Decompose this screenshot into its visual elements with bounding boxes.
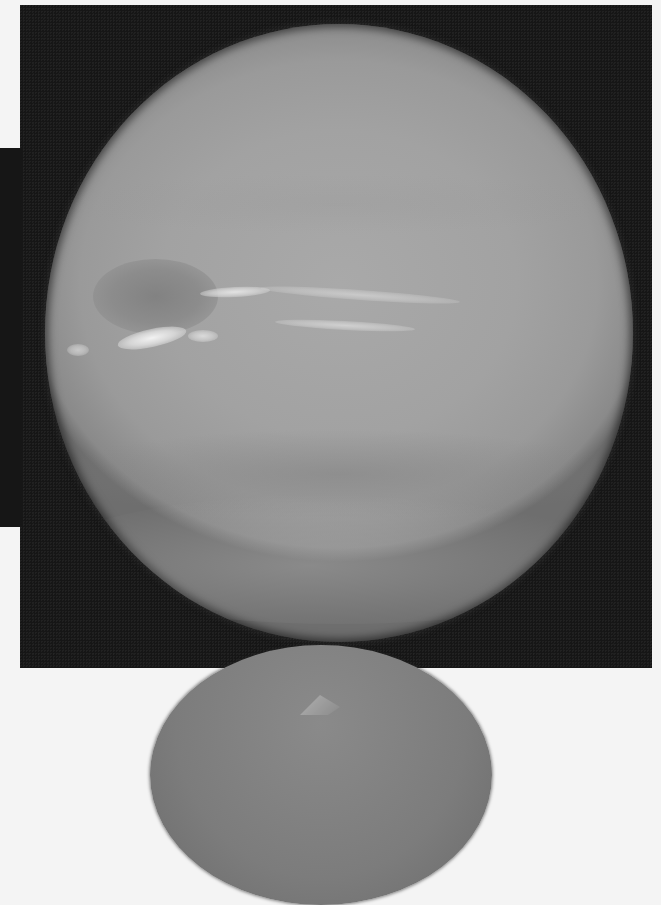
bright-cloud <box>67 344 89 356</box>
cloud-streak <box>260 283 460 307</box>
dark-spot <box>93 259 218 334</box>
sphere-surface-feature <box>300 695 340 715</box>
bright-cloud <box>188 330 218 342</box>
lower-sphere <box>150 645 492 905</box>
upper-band <box>45 174 633 234</box>
planet <box>45 24 633 642</box>
space-background-left-strip <box>0 148 22 527</box>
light-band <box>45 494 633 624</box>
cloud-streak <box>275 317 415 333</box>
